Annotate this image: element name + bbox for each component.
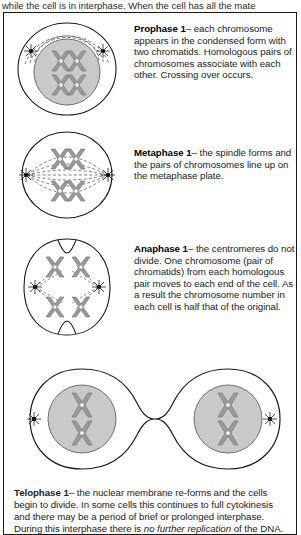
stage-text-anaphase-1: Anaphase 1– the centromeres do not divid… — [134, 243, 296, 313]
stage-panel-telophase-1 — [4, 357, 297, 485]
stage-panel-anaphase-1: Anaphase 1– the centromeres do not divid… — [4, 231, 297, 346]
stage-text-prophase-1: Prophase 1– each chromosome appears in t… — [134, 23, 294, 81]
dash-telophase-1: – — [69, 487, 74, 498]
stage-text-metaphase-1: Metaphase 1– the spindle forms and the p… — [134, 147, 294, 182]
telophase-body-italic: no further replication — [144, 523, 231, 534]
prophase-1-cell-illustration — [6, 17, 130, 121]
stage-title-prophase-1: Prophase 1 — [134, 23, 186, 34]
stage-panel-prophase-1: Prophase 1– each chromosome appears in t… — [4, 17, 297, 122]
stage-text-telophase-1: Telophase 1– the nuclear membrane re-for… — [14, 487, 290, 535]
dash-metaphase-1: – — [192, 147, 197, 158]
stage-panel-metaphase-1: Metaphase 1– the spindle forms and the p… — [4, 125, 297, 225]
dash-anaphase-1: – — [188, 243, 193, 254]
stage-title-metaphase-1: Metaphase 1 — [134, 147, 192, 158]
telophase-body-part2: of the DNA. — [231, 523, 283, 534]
clipped-body-text-above-figure: while the cell is in interphase. When th… — [2, 0, 301, 11]
telophase-1-two-daughter-cells-illustration — [12, 357, 290, 479]
stage-title-anaphase-1: Anaphase 1 — [134, 243, 188, 254]
meiosis-figure-frame: Prophase 1– each chromosome appears in t… — [3, 12, 297, 535]
dash-prophase-1: – — [186, 23, 191, 34]
anaphase-1-cell-illustration — [6, 231, 130, 343]
metaphase-1-cell-illustration — [6, 125, 130, 225]
stage-title-telophase-1: Telophase 1 — [14, 487, 69, 498]
